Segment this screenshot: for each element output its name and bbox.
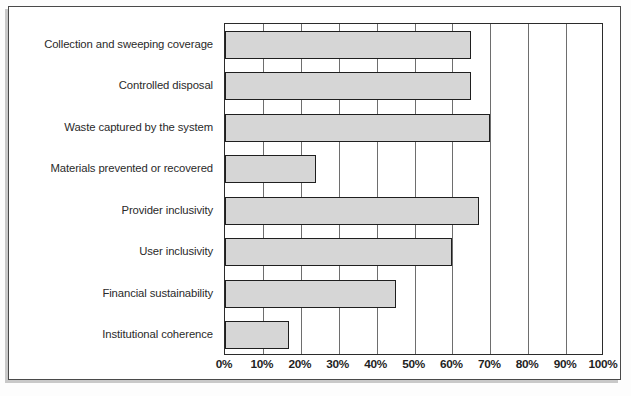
x-tick-label: 10% xyxy=(251,357,274,371)
bar-row xyxy=(225,72,602,100)
x-tick-label: 90% xyxy=(554,357,577,371)
bar xyxy=(225,280,396,308)
x-tick-label: 50% xyxy=(402,357,425,371)
category-label: Waste captured by the system xyxy=(64,121,213,133)
category-label: Controlled disposal xyxy=(119,79,213,91)
bar-row xyxy=(225,280,602,308)
x-tick-label: 20% xyxy=(288,357,311,371)
bar xyxy=(225,114,490,142)
bar xyxy=(225,155,316,183)
category-label: User inclusivity xyxy=(139,245,213,257)
x-tick-label: 0% xyxy=(216,357,232,371)
value-axis-tick-labels: 0%10%20%30%40%50%60%70%80%90%100% xyxy=(224,357,603,377)
bar xyxy=(225,197,479,225)
bar-rows xyxy=(225,24,602,354)
bar-row xyxy=(225,155,602,183)
category-axis-labels: Collection and sweeping coverageControll… xyxy=(17,23,219,355)
x-tick-label: 60% xyxy=(440,357,463,371)
x-tick-label: 80% xyxy=(516,357,539,371)
category-label: Financial sustainability xyxy=(102,287,213,299)
plot-area xyxy=(224,23,603,355)
x-tick-label: 70% xyxy=(478,357,501,371)
bar xyxy=(225,238,452,266)
category-label: Collection and sweeping coverage xyxy=(44,38,213,50)
bar xyxy=(225,321,289,349)
x-tick-label: 40% xyxy=(364,357,387,371)
figure-container: Collection and sweeping coverageControll… xyxy=(0,0,631,396)
bar-row xyxy=(225,321,602,349)
bar-row xyxy=(225,114,602,142)
bar xyxy=(225,72,471,100)
category-label: Provider inclusivity xyxy=(121,204,213,216)
bar-row xyxy=(225,238,602,266)
category-label: Institutional coherence xyxy=(102,328,213,340)
category-label: Materials prevented or recovered xyxy=(50,162,213,174)
figure-frame: Collection and sweeping coverageControll… xyxy=(8,6,621,380)
bar xyxy=(225,31,471,59)
x-tick-label: 30% xyxy=(326,357,349,371)
x-tick-label: 100% xyxy=(589,357,618,371)
bar-row xyxy=(225,197,602,225)
bar-row xyxy=(225,31,602,59)
